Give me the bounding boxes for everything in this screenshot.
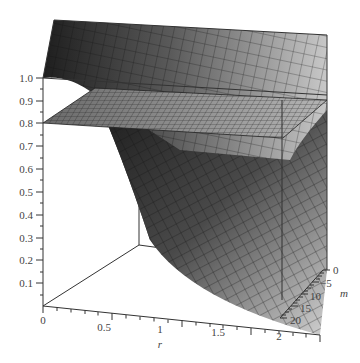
z-tick-0.1: 0.1	[19, 277, 33, 289]
z-axis	[36, 78, 43, 306]
z-tick-labels: 1.0 0.9 0.8 0.7 0.6 0.5 0.4 0.3 0.2 0.1	[19, 72, 33, 289]
r-tick-1: 1	[157, 323, 163, 335]
r-tick-1.5: 1.5	[211, 326, 225, 338]
z-tick-0.6: 0.6	[19, 163, 33, 175]
m-tick-minus-5: −5	[320, 277, 332, 289]
r-tick-labels: 0 0.5 1 1.5 2 r	[40, 314, 282, 350]
r-tick-0.5: 0.5	[97, 321, 111, 333]
z-tick-0.9: 0.9	[19, 95, 33, 107]
z-tick-0.8: 0.8	[19, 117, 33, 129]
surface-plot: 1.0 0.9 0.8 0.7 0.6 0.5 0.4 0.3 0.2 0.1	[0, 0, 360, 363]
z-tick-0.3: 0.3	[19, 232, 33, 244]
z-tick-0.2: 0.2	[19, 254, 33, 266]
r-tick-0: 0	[40, 314, 46, 326]
z-tick-0.7: 0.7	[19, 140, 33, 152]
m-tick-10: 10	[310, 290, 322, 302]
r-axis-title: r	[158, 338, 163, 350]
m-tick-15: 15	[300, 302, 312, 314]
m-tick-20: 20	[290, 314, 302, 326]
z-tick-1.0: 1.0	[19, 72, 33, 84]
m-axis-title: m	[340, 287, 348, 299]
z-tick-0.5: 0.5	[19, 186, 33, 198]
z-tick-0.4: 0.4	[19, 209, 33, 221]
r-tick-2: 2	[276, 330, 282, 342]
m-tick-0: 0	[333, 264, 339, 276]
